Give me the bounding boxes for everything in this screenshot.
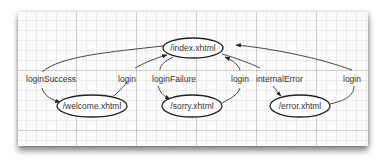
edge-label-login-2: login xyxy=(231,74,249,84)
node-error: /error.xhtml xyxy=(270,95,330,117)
node-label-sorry: /sorry.xhtml xyxy=(170,101,213,111)
node-label-error: /error.xhtml xyxy=(279,101,322,111)
node-sorry: /sorry.xhtml xyxy=(162,95,222,117)
edge-label-internal-error: internalError xyxy=(256,74,303,84)
node-index: /index.xhtml xyxy=(163,38,223,58)
node-label-index: /index.xhtml xyxy=(170,43,215,53)
navigation-diagram: loginSuccess login loginFailure login in… xyxy=(0,0,385,166)
edge-label-login-1: login xyxy=(118,74,136,84)
edge-label-login-3: login xyxy=(343,74,361,84)
edge-label-login-failure: loginFailure xyxy=(152,74,196,84)
node-welcome: /welcome.xhtml xyxy=(57,95,127,117)
edge-label-login-success: loginSuccess xyxy=(26,74,76,84)
node-label-welcome: /welcome.xhtml xyxy=(63,101,122,111)
